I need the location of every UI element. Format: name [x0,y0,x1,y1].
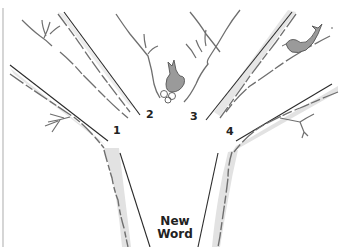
branch-label-3: 3 [190,111,198,122]
branch-2 [22,12,140,118]
bird-icon [161,60,185,103]
branch-label-1: 1 [113,125,121,136]
tree-diagram [0,0,339,247]
bird-icon [282,24,322,53]
branch-label-4: 4 [226,126,234,137]
center-fork [116,10,240,103]
trunk-label: New Word [150,215,200,241]
branch-4 [232,84,338,152]
trunk-label-line2: Word [150,228,200,241]
branch-1 [10,65,108,148]
branch-label-2: 2 [146,109,154,120]
